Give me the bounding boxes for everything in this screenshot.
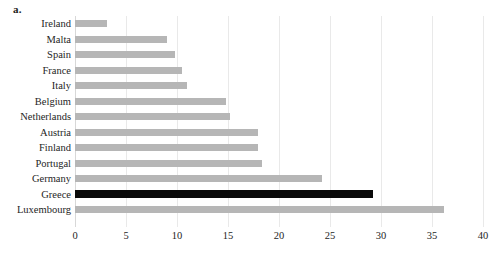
bar-row (75, 140, 483, 156)
x-tick-15: 15 (223, 229, 234, 243)
bar-germany (75, 175, 322, 182)
bar-finland (75, 144, 258, 151)
category-label-france: France (42, 63, 71, 79)
bar-row (75, 156, 483, 172)
category-label-greece: Greece (41, 187, 71, 203)
bar-belgium (75, 98, 226, 105)
panel-letter-label: a. (13, 3, 22, 15)
category-label-austria: Austria (40, 125, 71, 141)
bar-row (75, 94, 483, 110)
category-axis-labels: IrelandMaltaSpainFranceItalyBelgiumNethe… (0, 16, 71, 227)
bar-france (75, 67, 182, 74)
bar-row (75, 32, 483, 48)
category-label-finland: Finland (39, 140, 71, 156)
bar-row (75, 171, 483, 187)
category-label-luxembourg: Luxembourg (17, 202, 71, 218)
bar-luxembourg (75, 206, 444, 213)
bar-greece (75, 190, 373, 198)
x-tick-0: 0 (72, 229, 77, 243)
bar-malta (75, 36, 167, 43)
bar-portugal (75, 160, 262, 167)
category-label-netherlands: Netherlands (20, 109, 71, 125)
category-label-belgium: Belgium (35, 94, 71, 110)
bar-row (75, 109, 483, 125)
bar-spain (75, 51, 175, 58)
category-label-ireland: Ireland (41, 16, 71, 32)
bar-austria (75, 129, 258, 136)
bar-ireland (75, 20, 107, 27)
bar-row (75, 202, 483, 218)
category-label-italy: Italy (52, 78, 71, 94)
bar-row (75, 47, 483, 63)
category-label-portugal: Portugal (35, 156, 71, 172)
x-tick-30: 30 (376, 229, 387, 243)
x-tick-10: 10 (172, 229, 183, 243)
bar-row (75, 125, 483, 141)
x-tick-25: 25 (325, 229, 336, 243)
bar-row (75, 16, 483, 32)
category-label-spain: Spain (47, 47, 71, 63)
bar-netherlands (75, 113, 230, 120)
bar-row (75, 63, 483, 79)
x-tick-5: 5 (123, 229, 128, 243)
figure-panel: a. IrelandMaltaSpainFranceItalyBelgiumNe… (0, 0, 500, 259)
bar-italy (75, 82, 187, 89)
x-tick-40: 40 (478, 229, 489, 243)
x-tick-35: 35 (427, 229, 438, 243)
gridline-40 (483, 16, 484, 227)
plot-area (75, 16, 483, 227)
x-axis-tick-labels: 0510152025303540 (75, 229, 483, 245)
bar-row (75, 78, 483, 94)
category-label-germany: Germany (32, 171, 71, 187)
bar-series (75, 16, 483, 227)
category-label-malta: Malta (47, 32, 72, 48)
bar-row (75, 187, 483, 203)
x-tick-20: 20 (274, 229, 285, 243)
